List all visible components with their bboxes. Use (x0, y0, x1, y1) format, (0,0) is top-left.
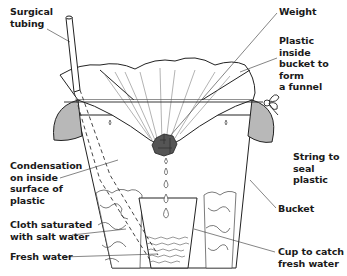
label-surgical-tubing: Surgical tubing (10, 6, 53, 29)
label-weight: Weight (279, 6, 316, 18)
label-condensation: Condensation on inside surface of plasti… (10, 160, 82, 206)
label-fresh-water: Fresh water (10, 251, 73, 263)
label-bucket: Bucket (278, 203, 314, 215)
label-string: String to seal plastic (293, 151, 347, 186)
label-cup: Cup to catch fresh water (278, 246, 344, 269)
label-plastic-funnel: Plastic inside bucket to form a funnel (279, 35, 347, 93)
label-cloth: Cloth saturated with salt water (10, 219, 92, 242)
